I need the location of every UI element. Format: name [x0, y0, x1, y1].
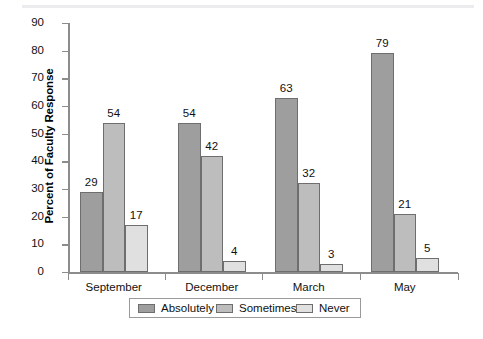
bar-value-label: 79	[357, 37, 407, 49]
x-axis-tick-mark	[360, 273, 361, 280]
y-axis-tick-label: 10	[18, 238, 44, 250]
y-axis-tick-label: 90	[18, 17, 44, 29]
bar-chart: Percent of Faculty Response 010203040506…	[0, 0, 483, 339]
bar-value-label: 5	[402, 242, 452, 254]
legend-label: Never	[319, 302, 350, 314]
legend-item-never[interactable]: Never	[296, 299, 350, 317]
bar	[223, 261, 246, 272]
x-axis-tick-mark	[165, 273, 166, 280]
y-axis-tick-mark	[62, 244, 68, 245]
legend-label: Absolutely	[161, 302, 214, 314]
bar-value-label: 54	[89, 107, 139, 119]
legend-label: Sometimes	[239, 302, 297, 314]
y-axis-tick-mark	[62, 161, 68, 162]
y-axis-tick-mark	[62, 78, 68, 79]
x-axis-category-label: May	[345, 281, 465, 293]
y-axis-tick-label: 70	[18, 72, 44, 84]
bar	[80, 192, 103, 272]
y-axis-tick-mark	[62, 134, 68, 135]
y-axis-line	[68, 23, 70, 273]
y-axis-tick-mark	[62, 51, 68, 52]
bar-value-label: 17	[111, 209, 161, 221]
bar-value-label: 54	[164, 107, 214, 119]
bar	[416, 258, 439, 272]
y-axis-tick-label: 0	[18, 266, 44, 278]
legend-swatch-icon	[216, 304, 233, 313]
y-axis-tick-label: 50	[18, 128, 44, 140]
legend-swatch-icon	[138, 304, 155, 313]
bar-value-label: 42	[187, 140, 237, 152]
y-axis-tick-mark	[62, 106, 68, 107]
y-axis-tick-mark	[62, 217, 68, 218]
y-axis-tick-label: 40	[18, 155, 44, 167]
bar	[103, 123, 126, 272]
x-axis-tick-mark	[262, 273, 263, 280]
y-axis-tick-label: 80	[18, 45, 44, 57]
legend-item-sometimes[interactable]: Sometimes	[216, 299, 297, 317]
y-axis-tick-label: 20	[18, 211, 44, 223]
bar	[320, 264, 343, 272]
y-axis-tick-mark	[62, 189, 68, 190]
bar-value-label: 32	[284, 167, 334, 179]
y-axis-tick-label: 60	[18, 100, 44, 112]
x-axis-tick-mark	[68, 273, 69, 280]
bar-value-label: 21	[380, 198, 430, 210]
bar-value-label: 63	[261, 82, 311, 94]
figure-container: Percent of Faculty Response 010203040506…	[0, 0, 483, 339]
legend-item-absolutely[interactable]: Absolutely	[138, 299, 214, 317]
y-axis-tick-label: 30	[18, 183, 44, 195]
bar	[125, 225, 148, 272]
chart-legend: AbsolutelySometimesNever	[129, 298, 361, 318]
bar	[275, 98, 298, 272]
bar	[371, 53, 394, 272]
bar-value-label: 3	[306, 248, 356, 260]
x-axis-tick-mark	[458, 273, 459, 280]
legend-swatch-icon	[296, 304, 313, 313]
y-axis-title: Percent of Faculty Response	[43, 21, 55, 271]
bar-value-label: 4	[209, 245, 259, 257]
y-axis-tick-mark	[62, 23, 68, 24]
